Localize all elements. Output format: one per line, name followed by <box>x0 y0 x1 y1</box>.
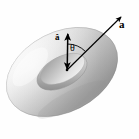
angle-theta-label: θ <box>70 43 75 53</box>
vector-origin-point <box>66 69 69 72</box>
figure-container: a â θ <box>0 0 139 139</box>
unit-normal-label: â <box>55 33 60 42</box>
unit-normal-arrow <box>67 34 68 69</box>
torus-shape <box>0 10 133 135</box>
vector-a-label: a <box>119 19 125 30</box>
